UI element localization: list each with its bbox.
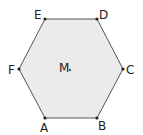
vertex-b-label: B — [98, 119, 106, 133]
vertex-a-dot — [43, 116, 46, 119]
vertex-c-label: C — [126, 63, 134, 77]
vertex-e-label: E — [34, 8, 42, 22]
vertex-c-dot — [121, 67, 124, 70]
vertex-a-label: A — [40, 121, 49, 135]
vertex-f-dot — [17, 67, 20, 70]
vertex-e-dot — [43, 17, 46, 20]
vertex-d-label: D — [99, 8, 108, 22]
hexagon-shape — [19, 19, 123, 118]
hexagon-diagram: A B C D E F M — [0, 0, 143, 135]
center-m-label: M — [59, 61, 69, 75]
vertex-f-label: F — [8, 63, 15, 77]
